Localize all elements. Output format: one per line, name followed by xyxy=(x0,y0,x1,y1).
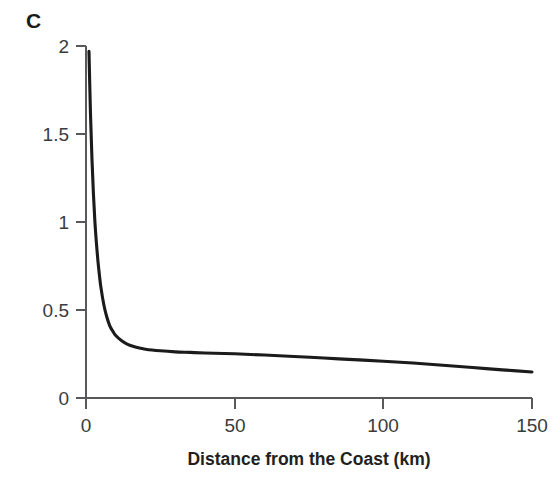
x-tick-label-2: 100 xyxy=(367,415,399,436)
y-tick-label-4: 2 xyxy=(58,36,69,57)
line-chart: 0 0.5 1 1.5 2 0 50 100 150 Distance from… xyxy=(0,0,553,482)
y-tick-label-2: 1 xyxy=(58,212,69,233)
x-axis-title: Distance from the Coast (km) xyxy=(187,449,430,469)
data-line-annual-damage-ratio xyxy=(89,51,532,372)
y-tick-label-1: 0.5 xyxy=(43,300,69,321)
y-tick-label-3: 1.5 xyxy=(43,124,69,145)
x-tick-label-3: 150 xyxy=(516,415,548,436)
x-tick-label-1: 50 xyxy=(224,415,245,436)
y-tick-marks xyxy=(76,46,86,398)
x-tick-label-0: 0 xyxy=(81,415,92,436)
figure-panel-c: C 0 0.5 1 1.5 2 0 50 100 150 xyxy=(0,0,553,482)
x-tick-marks xyxy=(86,398,532,409)
y-tick-label-0: 0 xyxy=(58,388,69,409)
